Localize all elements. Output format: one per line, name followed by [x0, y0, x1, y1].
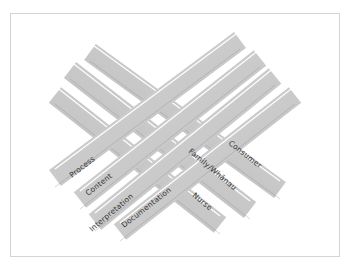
weave-diagram: ProcessContentInterpretationDocumentatio…: [0, 0, 348, 266]
